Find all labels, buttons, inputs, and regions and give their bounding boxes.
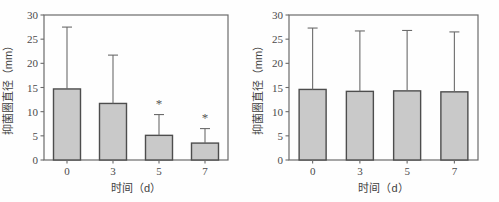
- significance-marker: *: [156, 96, 163, 111]
- y-axis-title: 抑菌圈直径（mm）: [1, 40, 14, 135]
- x-axis-tick-label: 0: [64, 165, 70, 177]
- y-axis-tick-label: 20: [272, 57, 284, 69]
- y-axis-tick-label: 25: [272, 33, 284, 45]
- x-axis-title: 时间（d）: [111, 182, 161, 194]
- bar: [441, 92, 468, 160]
- y-axis-tick-label: 0: [278, 154, 284, 166]
- x-axis-tick-label: 7: [452, 165, 458, 177]
- y-axis-tick-label: 20: [27, 57, 39, 69]
- x-axis-tick-label: 3: [357, 165, 363, 177]
- bar-chart-left: 051015202530035*7*时间（d）抑菌圈直径（mm）: [0, 0, 250, 202]
- bar: [299, 89, 326, 160]
- chart-panel-right: 0510152025300357时间（d）抑菌圈直径（mm）: [250, 0, 499, 202]
- bar: [192, 143, 219, 160]
- y-axis-tick-label: 5: [33, 130, 39, 142]
- x-axis-tick-label: 5: [404, 165, 410, 177]
- x-axis-tick-label: 3: [110, 165, 116, 177]
- y-axis-tick-label: 15: [272, 82, 284, 94]
- y-axis-tick-label: 10: [27, 106, 39, 118]
- y-axis-tick-label: 15: [27, 82, 39, 94]
- bar-chart-right: 0510152025300357时间（d）抑菌圈直径（mm）: [250, 0, 499, 202]
- y-axis-tick-label: 30: [27, 9, 39, 21]
- y-axis-title: 抑菌圈直径（mm）: [251, 40, 264, 135]
- bar: [100, 103, 127, 160]
- y-axis-tick-label: 30: [272, 9, 284, 21]
- figure-container: 051015202530035*7*时间（d）抑菌圈直径（mm） 0510152…: [0, 0, 499, 202]
- x-axis-title: 时间（d）: [358, 182, 408, 194]
- bar: [146, 135, 173, 160]
- y-axis-tick-label: 5: [278, 130, 284, 142]
- x-axis-tick-label: 0: [310, 165, 316, 177]
- x-axis-tick-label: 7: [202, 165, 208, 177]
- bar: [346, 91, 373, 160]
- bar: [54, 89, 81, 160]
- significance-marker: *: [202, 110, 209, 125]
- y-axis-tick-label: 0: [33, 154, 39, 166]
- x-axis-tick-label: 5: [156, 165, 162, 177]
- y-axis-tick-label: 25: [27, 33, 39, 45]
- bar: [394, 91, 421, 160]
- y-axis-tick-label: 10: [272, 106, 284, 118]
- chart-panel-left: 051015202530035*7*时间（d）抑菌圈直径（mm）: [0, 0, 250, 202]
